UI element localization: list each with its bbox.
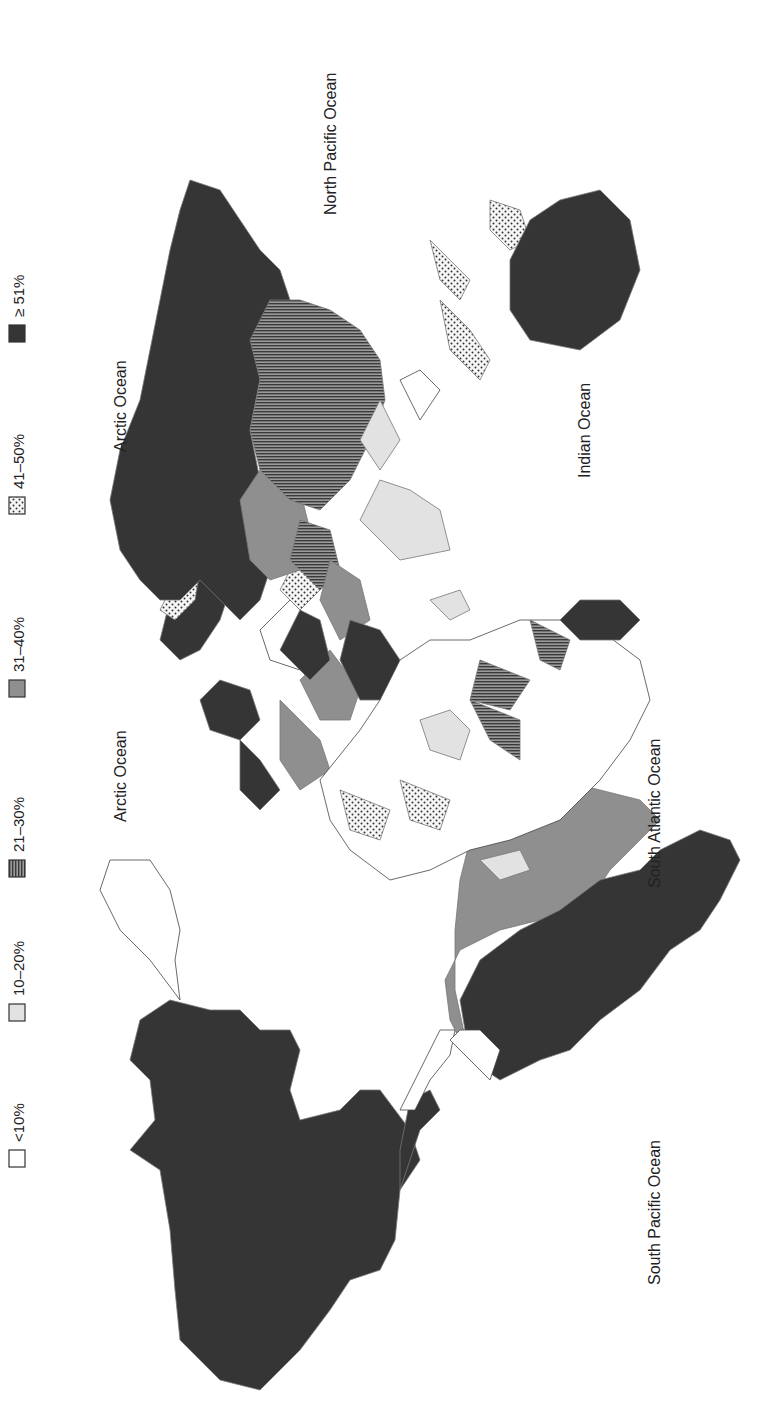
- label-north-pacific: North Pacific Ocean: [322, 73, 339, 215]
- label-arctic-2: Arctic Ocean: [112, 730, 129, 822]
- legend-item-41-50: 41–50%: [9, 434, 27, 514]
- legend-label: 41–50%: [10, 434, 27, 489]
- legend-label: 31–40%: [10, 617, 27, 672]
- legend-label: ≥ 51%: [10, 275, 27, 317]
- north-america: [100, 860, 440, 1390]
- legend-label: <10%: [10, 1103, 27, 1142]
- legend-item-21-30: 21–30%: [9, 797, 27, 877]
- legend-item-10-20: 10–20%: [9, 941, 27, 1021]
- label-indian: Indian Ocean: [576, 383, 593, 478]
- legend-item-ge51: ≥ 51%: [9, 275, 27, 342]
- china: [250, 300, 385, 510]
- legend-item-31-40: 31–40%: [9, 617, 27, 697]
- legend-label: 10–20%: [10, 941, 27, 996]
- legend-item-lt10: <10%: [9, 1103, 27, 1167]
- australia: [510, 190, 640, 350]
- world-map: <10% 10–20% 21–30% 31–40% 41–50% ≥ 51%: [0, 0, 771, 1422]
- label-south-atlantic: South Atlantic Ocean: [646, 739, 663, 888]
- label-south-pacific: South Pacific Ocean: [646, 1140, 663, 1285]
- legend-label: 21–30%: [10, 797, 27, 852]
- legend: <10% 10–20% 21–30% 31–40% 41–50% ≥ 51%: [9, 275, 27, 1167]
- label-arctic-1: Arctic Ocean: [112, 360, 129, 452]
